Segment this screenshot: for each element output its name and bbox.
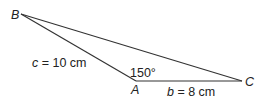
side-b-value: = 8 cm bbox=[174, 85, 215, 99]
triangle-diagram: B A C 150° c = 10 cm b = 8 cm bbox=[0, 0, 266, 110]
vertex-label-c: C bbox=[245, 75, 255, 89]
side-b-var: b bbox=[167, 85, 174, 99]
side-c-label: c = 10 cm bbox=[32, 56, 87, 70]
side-b-label: b = 8 cm bbox=[167, 85, 215, 99]
angle-a-label: 150° bbox=[130, 66, 156, 80]
vertex-label-a: A bbox=[130, 83, 139, 97]
side-c-value: = 10 cm bbox=[38, 56, 86, 70]
vertex-label-b: B bbox=[11, 8, 19, 22]
edge-ab bbox=[21, 14, 136, 81]
